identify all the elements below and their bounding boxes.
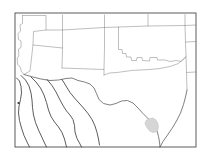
southwest-us-outline-map (0, 0, 209, 162)
point-marker-icon (17, 102, 19, 104)
map-frame (15, 13, 196, 147)
map-figure (0, 0, 209, 162)
